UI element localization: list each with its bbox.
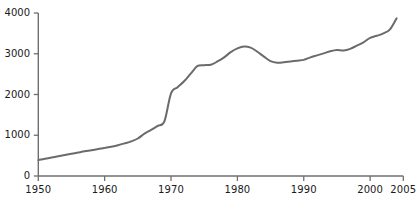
x-axis-ticks: [38, 176, 403, 181]
x-tick-label: 1970: [158, 185, 184, 195]
x-tick-label: 1990: [291, 185, 317, 195]
y-tick-label: 2000: [0, 90, 30, 100]
plot-area: [0, 0, 419, 208]
y-tick-label: 1000: [0, 130, 30, 140]
x-tick-label: 2005: [390, 185, 416, 195]
y-tick-label: 0: [0, 171, 30, 181]
axis-lines: [38, 13, 403, 176]
x-tick-label: 1980: [224, 185, 250, 195]
line-chart: 01000200030004000 1950196019701980199020…: [0, 0, 419, 208]
data-series-line: [38, 18, 396, 160]
x-tick-label: 1960: [92, 185, 118, 195]
y-tick-label: 4000: [0, 8, 30, 18]
x-tick-label: 1950: [25, 185, 51, 195]
y-tick-label: 3000: [0, 49, 30, 59]
x-tick-label: 2000: [357, 185, 383, 195]
